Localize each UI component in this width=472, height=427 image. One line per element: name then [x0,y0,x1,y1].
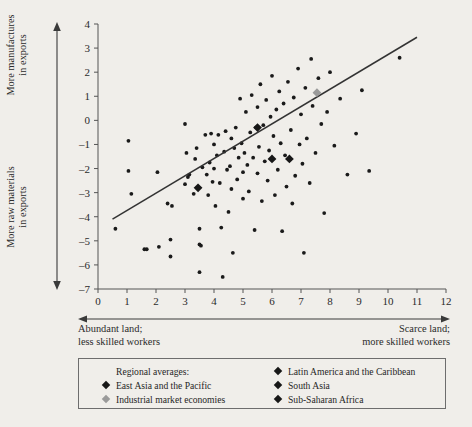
scatter-point [285,185,289,189]
regional-average-marker [268,155,277,164]
legend-diamond-marker-icon [274,367,282,375]
legend-item[interactable]: South Asia [275,378,415,392]
scatter-point [293,174,297,178]
x-axis-label-left-line2: less skilled workers [78,335,160,348]
scatter-point [241,197,245,201]
scatter-point [332,144,336,148]
scatter-point [230,137,234,141]
legend-column-right: Latin America and the CaribbeanSouth Asi… [275,364,415,406]
scatter-point [299,112,303,116]
regional-average-marker [194,183,203,192]
scatter-point [244,110,248,114]
scatter-point [308,181,312,185]
legend-item[interactable]: East Asia and the Pacific [103,378,225,392]
scatter-point [298,143,302,147]
scatter-point [282,102,286,106]
scatter-point [303,86,307,90]
legend-column-left: Regional averages: East Asia and the Pac… [103,364,225,406]
scatter-point [309,57,313,61]
scatter-point [269,115,273,119]
scatter-point [250,93,254,97]
scatter-point [256,171,260,175]
scatter-point [199,244,203,248]
scatter-point [274,108,278,112]
scatter-point [328,70,332,74]
scatter-point [398,56,402,60]
scatter-point [354,132,358,136]
scatter-point [259,82,263,86]
scatter-point [322,211,326,215]
scatter-point [277,90,281,94]
scatter-point [270,74,274,78]
scatter-point [212,143,216,147]
x-axis-tick-label: 1 [124,295,130,307]
scatter-point [185,151,189,155]
y-axis-tick-label: –1 [78,138,90,150]
x-axis-label-left-line1: Abundant land; [78,322,160,335]
x-axis-tick-label: 12 [441,295,452,307]
x-axis-tick-label: 7 [298,295,304,307]
y-axis-tick-label: –7 [78,283,91,295]
scatter-point [192,192,196,196]
y-axis-tick-label: –2 [78,163,90,175]
scatter-point [227,210,231,214]
scatter-point [127,169,131,173]
legend-item-label: South Asia [288,380,330,391]
scatter-point [248,131,252,135]
y-axis-tick-label: –6 [78,259,91,271]
scatter-point [305,137,309,141]
scatter-point [224,129,228,133]
scatter-point [169,238,173,242]
scatter-point [198,270,202,274]
x-axis-tick-label: 9 [356,295,362,307]
scatter-point [221,275,225,279]
scatter-point [198,227,202,231]
scatter-point [145,247,149,251]
scatter-point [225,168,229,172]
scatter-point [205,173,209,177]
scatter-point [169,255,173,259]
scatter-point [263,159,267,163]
x-axis-tick-label: 3 [182,295,188,307]
scatter-point [314,151,318,155]
scatter-point [292,96,296,100]
legend-diamond-marker-icon [102,381,110,389]
scatter-point [183,122,187,126]
scatter-point [257,145,261,149]
legend-item-label: Sub-Saharan Africa [288,394,363,405]
scatter-point [266,179,270,183]
legend-header: Regional averages: [103,364,225,378]
scatter-point [129,192,133,196]
x-axis-label-right-line2: more skilled workers [362,335,450,348]
scatter-point [264,98,268,102]
scatter-point [234,126,238,130]
legend-diamond-marker-icon [274,381,282,389]
scatter-point [157,245,161,249]
scatter-point [317,76,321,80]
legend-item-label: East Asia and the Pacific [116,380,211,391]
scatter-point [296,67,300,71]
y-axis-tick-label: 3 [85,42,91,54]
y-axis-tick-label: –4 [78,211,91,223]
scatter-point [114,227,118,231]
x-axis-tick-label: 5 [240,295,246,307]
y-axis-tick-label: 1 [85,90,91,102]
scatter-point [235,177,239,181]
scatter-point [183,182,187,186]
scatter-point [170,204,174,208]
scatter-point [228,164,232,168]
scatter-point [243,151,247,155]
legend-diamond-marker-icon [274,395,282,403]
scatter-point [302,251,306,255]
scatter-point [273,193,277,197]
y-axis-tick-label: 0 [85,114,91,126]
scatter-point [253,228,257,232]
scatter-point [211,180,215,184]
legend-item[interactable]: Sub-Saharan Africa [275,392,415,406]
scatter-point [276,168,280,172]
x-axis-tick-label: 8 [327,295,333,307]
scatter-point [283,153,287,157]
legend-item[interactable]: Latin America and the Caribbean [275,364,415,378]
scatter-point [156,170,160,174]
legend-item[interactable]: Industrial market economies [103,392,225,406]
